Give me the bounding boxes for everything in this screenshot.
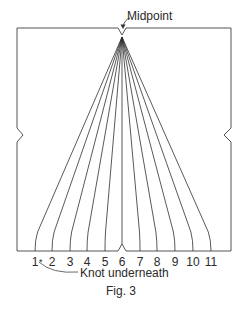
- strand-line: [35, 37, 122, 251]
- midpoint-label: Midpoint: [127, 10, 172, 22]
- arrowhead-icon: [121, 25, 126, 30]
- knot-label: Knot underneath: [80, 267, 169, 279]
- strand-line: [122, 37, 140, 251]
- strand-line: [70, 37, 122, 251]
- figure-caption: Fig. 3: [106, 285, 136, 297]
- strand-number: 1: [32, 256, 39, 268]
- strand-number: 11: [205, 256, 217, 268]
- strand-lines: [35, 37, 211, 251]
- strand-line: [52, 37, 122, 251]
- strand-line: [122, 37, 193, 251]
- strand-line: [122, 37, 211, 251]
- strand-number: 10: [186, 256, 199, 268]
- strand-number: 9: [172, 256, 179, 268]
- strand-line: [122, 37, 157, 251]
- strand-number: 2: [49, 256, 56, 268]
- strand-number: 3: [67, 256, 74, 268]
- strand-line: [87, 37, 122, 251]
- knot-marker: *: [39, 256, 43, 268]
- strand-line: [122, 37, 175, 251]
